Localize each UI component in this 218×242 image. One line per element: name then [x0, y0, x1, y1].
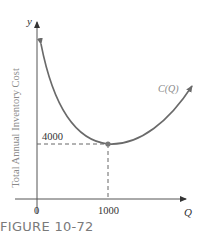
origin-label: 0	[34, 205, 39, 216]
cost-curve	[41, 44, 192, 144]
y-axis-title: Total Annual Inventory Cost	[10, 68, 21, 188]
figure-caption: FIGURE 10-72	[0, 219, 94, 234]
minimum-point	[105, 141, 110, 146]
x-axis-letter: Q	[184, 206, 192, 218]
min-y-label: 4000	[42, 131, 63, 142]
cost-curve-chart: y Q C(Q) 4000 0 1000	[0, 0, 218, 242]
min-x-label: 1000	[98, 205, 119, 216]
y-axis-letter: y	[26, 15, 32, 27]
curve-label: C(Q)	[158, 83, 179, 95]
